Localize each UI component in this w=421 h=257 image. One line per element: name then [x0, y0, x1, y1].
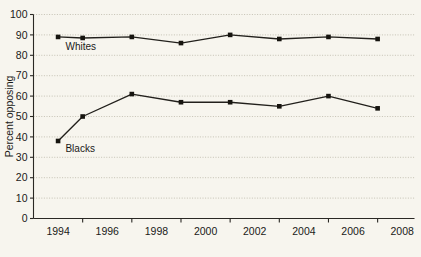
y-tick-label: 60: [16, 90, 28, 102]
y-tick-label: 30: [16, 151, 28, 163]
data-point-blacks-1994: [56, 139, 61, 144]
y-tick-label: 50: [16, 110, 28, 122]
y-tick-label: 90: [16, 29, 28, 41]
x-tick-label: 1994: [46, 225, 70, 237]
data-point-whites-1994: [56, 35, 61, 40]
data-point-blacks-1999: [179, 100, 184, 105]
series-label-whites: Whites: [65, 41, 96, 52]
data-point-whites-2005: [326, 35, 331, 40]
y-tick-label: 0: [22, 212, 28, 224]
data-point-whites-1997: [130, 35, 135, 40]
x-tick-label: 2006: [341, 225, 365, 237]
data-point-blacks-2001: [228, 100, 233, 105]
y-tick-label: 10: [16, 192, 28, 204]
data-point-blacks-1997: [130, 92, 135, 97]
data-point-blacks-2005: [326, 94, 331, 99]
data-point-blacks-1995: [80, 114, 85, 119]
x-tick-label: 2008: [391, 225, 415, 237]
chart-container: 0102030405060708090100199419961998200020…: [0, 0, 421, 257]
x-tick-label: 1996: [96, 225, 120, 237]
x-tick-label: 1998: [145, 225, 169, 237]
x-tick-label: 2000: [194, 225, 218, 237]
y-tick-label: 20: [16, 171, 28, 183]
x-tick-label: 2004: [292, 225, 316, 237]
data-point-blacks-2007: [375, 106, 380, 111]
data-point-whites-2001: [228, 33, 233, 38]
data-point-whites-2003: [277, 37, 282, 42]
y-tick-label: 40: [16, 131, 28, 143]
line-chart: 0102030405060708090100199419961998200020…: [0, 0, 421, 257]
y-tick-label: 100: [10, 8, 28, 20]
y-tick-label: 80: [16, 49, 28, 61]
data-point-whites-1999: [179, 41, 184, 46]
y-tick-label: 70: [16, 69, 28, 81]
data-point-blacks-2003: [277, 104, 282, 109]
series-line-blacks: [58, 94, 378, 141]
series-label-blacks: Blacks: [65, 143, 94, 154]
data-point-whites-2007: [375, 37, 380, 42]
x-tick-label: 2002: [243, 225, 267, 237]
y-axis-title: Percent opposing: [3, 75, 15, 157]
data-point-whites-1995: [80, 36, 85, 41]
